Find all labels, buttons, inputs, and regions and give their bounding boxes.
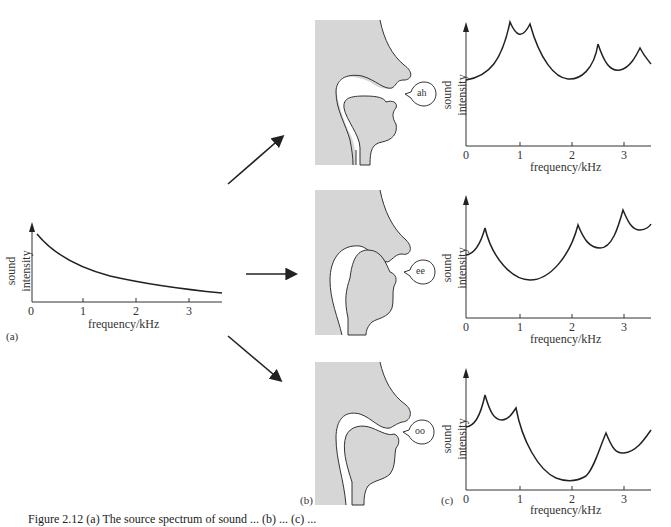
arrows [228,137,295,380]
panel-label-a: (a) [6,330,18,342]
vowel-label-ah: ah [417,87,426,98]
source-curve [37,234,222,293]
vowel-label-ee: ee [416,265,425,276]
vowel-label-oo: oo [415,425,425,436]
arrow-down-right-icon [228,336,280,380]
oo-xtick-1: 1 [517,492,523,507]
source-ylabel: sound intensity [4,240,34,302]
oo-xlabel: frequency/kHz [530,503,601,518]
ah-xtick-0: 0 [463,148,469,163]
panel-label-b: (b) [300,494,313,506]
ah-xtick-3: 3 [621,148,627,163]
source-xtick-1: 1 [80,304,86,319]
ah-xtick-1: 1 [517,148,523,163]
source-xtick-0: 0 [28,304,34,319]
ee-xtick-0: 0 [463,320,469,335]
panel-label-c: (c) [441,494,453,506]
y-axis-arrow-icon [29,222,35,232]
source-xtick-3: 3 [186,304,192,319]
ah-xlabel: frequency/kHz [530,160,601,175]
chart-source-spectrum [29,222,222,302]
oo-xtick-3: 3 [621,492,627,507]
arrow-up-right-icon [228,137,282,184]
y-axis-arrow-icon [463,368,469,378]
chart-ee-spectrum [463,195,651,318]
figure-caption: Figure 2.12 (a) The source spectrum of s… [28,512,316,527]
ee-xtick-3: 3 [621,320,627,335]
chart-oo-spectrum [463,368,651,490]
chart-ah-spectrum [463,22,651,146]
oo-xtick-0: 0 [463,492,469,507]
y-axis-arrow-icon [463,195,469,205]
ee-xtick-1: 1 [517,320,523,335]
y-axis-arrow-icon [463,22,469,32]
vocal-tract-ee [315,190,435,335]
oo-ylabel: sound intensity [440,404,470,474]
ee-xlabel: frequency/kHz [530,332,601,347]
ah-ylabel: sound intensity [440,60,470,130]
ee-ylabel: sound intensity [440,233,470,303]
source-xlabel: frequency/kHz [88,317,159,332]
